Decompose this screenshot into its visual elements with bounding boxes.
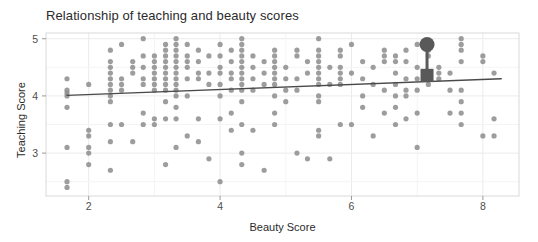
data-point — [217, 116, 222, 121]
data-point — [163, 70, 168, 75]
data-point — [173, 42, 178, 47]
data-point — [316, 70, 321, 75]
data-point — [185, 93, 190, 98]
data-point — [393, 59, 398, 64]
data-point — [108, 122, 113, 127]
data-point — [217, 65, 222, 70]
data-point — [349, 42, 354, 47]
data-point — [360, 105, 365, 110]
data-point — [327, 65, 332, 70]
data-point — [262, 70, 267, 75]
data-point — [217, 53, 222, 58]
data-point — [185, 133, 190, 138]
data-point — [163, 82, 168, 87]
data-point — [294, 151, 299, 156]
data-point — [119, 122, 124, 127]
data-point — [108, 65, 113, 70]
data-point — [338, 76, 343, 81]
data-point — [196, 76, 201, 81]
data-point — [173, 116, 178, 121]
data-point — [316, 59, 321, 64]
data-point — [108, 48, 113, 53]
data-point — [447, 110, 452, 115]
data-point — [447, 88, 452, 93]
data-point — [294, 76, 299, 81]
data-point — [152, 70, 157, 75]
data-point — [163, 59, 168, 64]
data-point — [316, 133, 321, 138]
data-point — [152, 76, 157, 81]
data-point — [250, 65, 255, 70]
data-point — [173, 48, 178, 53]
data-point — [294, 53, 299, 58]
data-point — [141, 53, 146, 58]
data-point — [173, 88, 178, 93]
data-point — [163, 76, 168, 81]
data-point — [163, 42, 168, 47]
data-point — [206, 53, 211, 58]
data-point — [239, 65, 244, 70]
data-point — [64, 105, 69, 110]
data-point — [371, 65, 376, 70]
data-point — [316, 36, 321, 41]
data-point — [185, 65, 190, 70]
data-point — [217, 82, 222, 87]
data-point — [239, 70, 244, 75]
data-point — [229, 48, 234, 53]
data-point — [206, 156, 211, 161]
data-point — [349, 122, 354, 127]
data-point — [382, 110, 387, 115]
data-point — [272, 76, 277, 81]
data-point — [163, 99, 168, 104]
data-point — [173, 53, 178, 58]
data-point — [349, 70, 354, 75]
data-point — [403, 93, 408, 98]
data-point — [283, 99, 288, 104]
data-point — [272, 65, 277, 70]
data-point — [108, 59, 113, 64]
data-point — [173, 145, 178, 150]
data-point — [141, 110, 146, 115]
data-point — [108, 99, 113, 104]
data-point — [403, 48, 408, 53]
data-point — [305, 156, 310, 161]
data-point — [239, 76, 244, 81]
data-point — [163, 65, 168, 70]
cursor-circle-handle[interactable] — [420, 37, 435, 52]
data-point — [360, 76, 365, 81]
data-point — [196, 59, 201, 64]
data-point — [141, 122, 146, 127]
data-point — [206, 70, 211, 75]
scatter-plot-canvas — [0, 0, 538, 242]
data-point — [108, 76, 113, 81]
data-point — [152, 116, 157, 121]
data-point — [415, 65, 420, 70]
data-point — [86, 151, 91, 156]
data-point — [217, 42, 222, 47]
data-point — [415, 42, 420, 47]
data-point — [173, 93, 178, 98]
data-point — [393, 105, 398, 110]
data-point — [480, 133, 485, 138]
data-point — [86, 82, 91, 87]
data-point — [250, 76, 255, 81]
data-point — [316, 48, 321, 53]
data-point — [108, 82, 113, 87]
cursor-square-handle[interactable] — [421, 69, 434, 82]
data-point — [283, 88, 288, 93]
data-point — [491, 133, 496, 138]
data-point — [338, 65, 343, 70]
data-point — [196, 70, 201, 75]
data-point — [239, 82, 244, 87]
data-point — [119, 42, 124, 47]
data-point — [239, 162, 244, 167]
data-point — [436, 70, 441, 75]
data-point — [316, 65, 321, 70]
data-point — [64, 145, 69, 150]
data-point — [459, 42, 464, 47]
data-point — [86, 145, 91, 150]
data-point — [262, 168, 267, 173]
data-point — [316, 76, 321, 81]
data-point — [393, 70, 398, 75]
data-point — [272, 110, 277, 115]
